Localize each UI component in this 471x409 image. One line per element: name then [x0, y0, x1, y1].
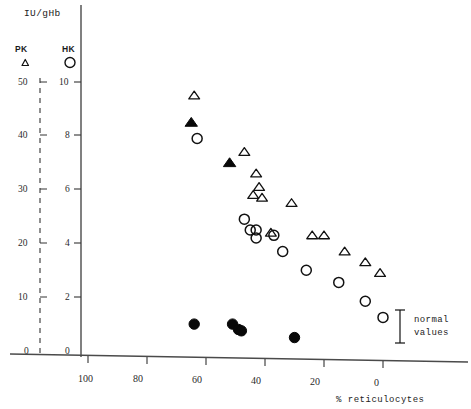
x-axis — [10, 354, 468, 368]
data-point — [301, 265, 311, 275]
data-point — [360, 296, 370, 306]
data-point — [334, 277, 344, 287]
data-point — [254, 183, 265, 191]
plot-canvas — [0, 0, 471, 409]
data-point — [239, 148, 250, 156]
data-points-layer — [185, 91, 388, 343]
data-point — [375, 269, 386, 277]
left-dashed-axis — [40, 78, 47, 358]
legend-marker-pk-triangle — [22, 60, 29, 66]
legend-marker-hk-circle — [65, 58, 75, 68]
data-point — [319, 231, 330, 239]
data-point — [360, 258, 371, 266]
series-filled-circle — [189, 319, 300, 343]
data-point — [189, 91, 200, 99]
data-point — [339, 247, 350, 255]
scatter-plot-figure: IU/gHb PK HK 50 40 30 20 10 0 10 8 6 4 2… — [0, 0, 471, 409]
data-point — [289, 332, 299, 342]
data-point — [286, 199, 297, 207]
data-point — [378, 312, 388, 322]
data-point — [192, 133, 202, 143]
data-point — [236, 326, 246, 336]
data-point — [189, 319, 199, 329]
right-solid-axis — [74, 5, 81, 357]
data-point — [248, 191, 259, 199]
normal-values-range-bar — [395, 310, 405, 343]
data-point — [185, 117, 197, 126]
data-point — [251, 169, 262, 177]
data-point — [239, 214, 249, 224]
data-point — [223, 158, 235, 167]
data-point — [307, 231, 318, 239]
series-open-circle — [192, 133, 388, 322]
data-point — [278, 246, 288, 256]
